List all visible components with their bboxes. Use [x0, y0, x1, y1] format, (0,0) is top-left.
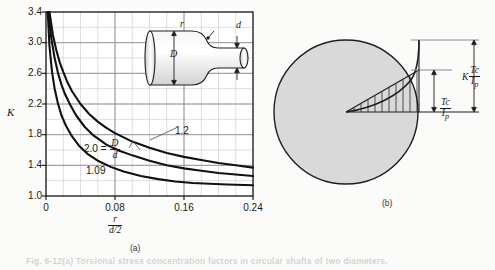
y-tick-label: 1.0 [0, 190, 42, 201]
y-tick-label: 2.6 [0, 67, 42, 78]
y-tick-label: 1.8 [0, 128, 42, 139]
panel-b-tag: (b) [382, 198, 392, 208]
shaft-right-end [240, 48, 248, 68]
curve-label-2-0-text: 2.0 = [84, 143, 107, 154]
curve-label-2-0: 2.0 = D d [84, 138, 120, 160]
shaft-label-D: D [170, 48, 177, 59]
x-axis-title-denominator: d/2 [108, 226, 122, 236]
shaft-label-r: r [180, 18, 184, 29]
dimension-r [206, 31, 214, 40]
x-tick-label: 0 [26, 202, 66, 213]
shaft-section-diagram [262, 18, 492, 238]
peak-stress-k: K [462, 72, 468, 82]
x-tick-label: 0.16 [164, 202, 204, 213]
nominal-stress-denominator: Ip [440, 109, 451, 121]
dimension-nominal-stress [432, 70, 437, 112]
peak-stress-denominator: Ip [469, 77, 480, 89]
x-axis-title: r d/2 [108, 215, 122, 236]
curve-label-2-0-denominator: d [110, 150, 119, 161]
shaft-label-d: d [236, 19, 241, 30]
shaft-body [150, 31, 244, 85]
y-tick-label: 1.4 [0, 159, 42, 170]
curve-label-1-09: 1.09 [86, 165, 105, 176]
shaft-left-end [145, 31, 155, 85]
panel-a-tag: (a) [130, 243, 140, 253]
y-axis-title: K [7, 106, 14, 118]
peak-stress-label: K Tc Ip [462, 66, 480, 89]
y-tick-label: 3.0 [0, 36, 42, 47]
figure-root: 1.01.41.82.22.63.03.4 00.080.160.24 K r … [0, 0, 495, 270]
figure-caption: Fig. 6-12(a) Torsional stress concentrat… [0, 256, 495, 270]
nominal-stress-label: Tc Ip [440, 98, 451, 121]
curve-label-2-0-numerator: D [110, 138, 119, 150]
curve-label-1-2: 1.2 [175, 125, 189, 136]
x-tick-label: 0.08 [95, 202, 135, 213]
y-tick-label: 3.4 [0, 6, 42, 17]
